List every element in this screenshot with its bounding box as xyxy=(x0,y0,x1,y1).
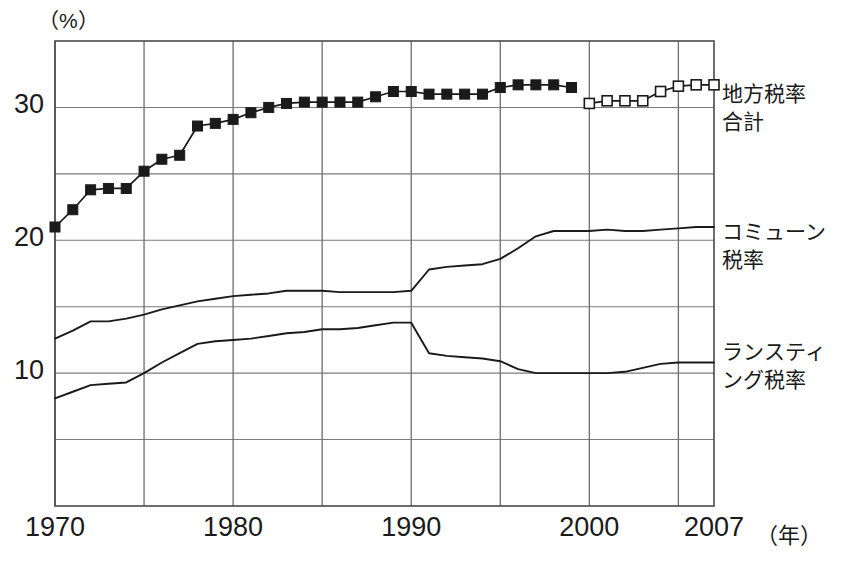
series-label-line: コミューン xyxy=(722,218,826,246)
data-point-marker xyxy=(175,150,185,160)
data-point-marker xyxy=(602,96,612,106)
series-line-2 xyxy=(55,227,714,339)
series-label-1: コミューン税率 xyxy=(722,218,826,274)
data-point-marker xyxy=(673,81,683,91)
data-point-marker xyxy=(264,102,274,112)
data-point-marker xyxy=(139,166,149,176)
data-point-marker xyxy=(86,185,96,195)
chart-container: （%） 302010 19701980199020002007 地方税率合計コミ… xyxy=(0,0,844,563)
data-point-marker xyxy=(584,98,594,108)
series-label-0: 地方税率合計 xyxy=(722,80,806,136)
series-label-line: 地方税率 xyxy=(722,80,806,108)
x-axis-unit-label: （年） xyxy=(756,517,822,549)
data-point-marker xyxy=(620,96,630,106)
x-axis-tick-2007: 2007 xyxy=(683,512,745,543)
y-axis-tick-30: 30 xyxy=(0,89,44,120)
data-point-marker xyxy=(353,97,363,107)
data-point-marker xyxy=(299,97,309,107)
data-point-marker xyxy=(442,89,452,99)
data-point-marker xyxy=(68,205,78,215)
plot-frame xyxy=(55,41,714,506)
data-point-marker xyxy=(335,97,345,107)
x-axis-tick-1980: 1980 xyxy=(202,512,264,543)
data-point-marker xyxy=(317,97,327,107)
data-point-marker xyxy=(691,80,701,90)
data-point-marker xyxy=(210,118,220,128)
data-point-marker xyxy=(656,86,666,96)
data-point-marker xyxy=(460,89,470,99)
data-point-marker xyxy=(388,86,398,96)
series-line-0 xyxy=(55,85,572,227)
series-label-line: 税率 xyxy=(722,246,826,274)
x-axis-tick-2000: 2000 xyxy=(558,512,620,543)
y-axis-tick-10: 10 xyxy=(0,355,44,386)
data-point-marker xyxy=(192,121,202,131)
data-point-marker xyxy=(157,154,167,164)
data-point-marker xyxy=(567,83,577,93)
data-point-marker xyxy=(549,80,559,90)
data-point-marker xyxy=(638,96,648,106)
y-axis-tick-20: 20 xyxy=(0,222,44,253)
series-label-2: ランスティング税率 xyxy=(722,338,826,394)
series-line-3 xyxy=(55,323,714,399)
x-axis-tick-1970: 1970 xyxy=(24,512,86,543)
data-point-marker xyxy=(50,222,60,232)
data-point-marker xyxy=(424,89,434,99)
chart-plot-area xyxy=(0,0,844,563)
data-point-marker xyxy=(495,83,505,93)
data-point-marker xyxy=(228,114,238,124)
x-axis-tick-1990: 1990 xyxy=(380,512,442,543)
data-point-marker xyxy=(282,98,292,108)
data-point-marker xyxy=(531,80,541,90)
data-point-marker xyxy=(406,86,416,96)
data-point-marker xyxy=(513,80,523,90)
data-point-marker xyxy=(477,89,487,99)
data-point-marker xyxy=(709,80,719,90)
series-label-line: ング税率 xyxy=(722,366,826,394)
data-point-marker xyxy=(103,183,113,193)
data-point-marker xyxy=(246,108,256,118)
series-label-line: 合計 xyxy=(722,108,806,136)
series-label-line: ランスティ xyxy=(722,338,826,366)
data-point-marker xyxy=(371,92,381,102)
data-point-marker xyxy=(121,183,131,193)
